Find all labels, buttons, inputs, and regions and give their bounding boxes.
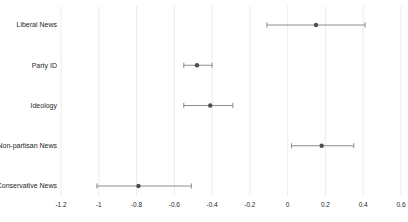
x-axis-tick-label: -1	[96, 201, 102, 208]
category-label: Conservative News	[0, 182, 57, 189]
x-axis-tick-label: -0.2	[244, 201, 256, 208]
x-axis-tick-label: 0	[286, 201, 290, 208]
x-axis-tick-label: 0.6	[396, 201, 405, 208]
point-estimate-marker	[314, 23, 318, 27]
category-label: Ideology	[31, 102, 58, 110]
point-estimate-marker	[208, 103, 212, 107]
point-estimate-marker	[136, 184, 140, 188]
x-axis-tick-label: 0.4	[359, 201, 368, 208]
point-estimate-marker	[319, 144, 323, 148]
coefficient-plot: -1.2-1-0.8-0.6-0.4-0.200.20.40.6Liberal …	[0, 0, 408, 222]
coefficient-plot-figure: -1.2-1-0.8-0.6-0.4-0.200.20.40.6Liberal …	[0, 0, 408, 222]
category-label: Non-partisan News	[0, 142, 57, 150]
point-estimate-marker	[195, 63, 199, 67]
x-axis-tick-label: -0.4	[207, 201, 219, 208]
x-axis-tick-label: 0.2	[321, 201, 330, 208]
x-axis-tick-label: -1.2	[55, 201, 67, 208]
category-label: Party ID	[32, 62, 57, 70]
x-axis-tick-label: -0.8	[131, 201, 143, 208]
category-label: Liberal News	[17, 21, 58, 28]
x-axis-tick-label: -0.6	[169, 201, 181, 208]
